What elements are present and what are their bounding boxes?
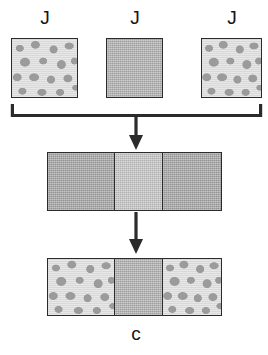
middle-panel-right (162, 153, 221, 210)
top-label-left: J (25, 8, 65, 27)
bottom-panel-left (48, 259, 114, 315)
top-square-right (201, 38, 262, 98)
middle-panel-left (48, 153, 114, 210)
bottom-panel-center (114, 259, 162, 315)
grouping-bracket-icon (12, 104, 260, 116)
bottom-panel-right (162, 259, 221, 315)
bottom-stack (47, 258, 222, 316)
diagram-canvas: J J J c (0, 0, 268, 355)
bottom-label: c (106, 324, 166, 343)
middle-panel-center (114, 153, 162, 210)
arrow-down-icon-2 (129, 212, 143, 254)
middle-stack (47, 152, 222, 211)
arrow-down-icon-1 (129, 115, 143, 150)
top-square-left (11, 38, 78, 98)
top-label-right: J (212, 8, 252, 27)
top-label-middle: J (115, 8, 155, 27)
top-square-middle (106, 38, 163, 98)
